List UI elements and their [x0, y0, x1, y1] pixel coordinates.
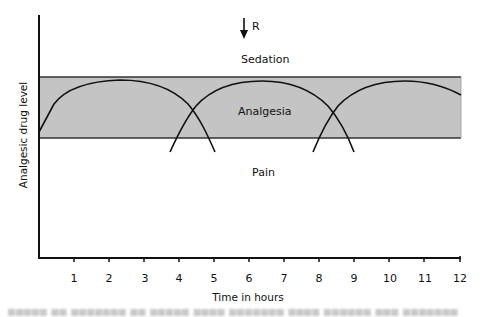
x-tick-label: 9	[351, 272, 358, 285]
x-tick-label: 11	[418, 272, 432, 285]
marker-r-label: R	[252, 20, 260, 33]
x-tick-label: 7	[281, 272, 288, 285]
y-axis-title: Analgesic drug level	[17, 82, 29, 188]
sedation-label: Sedation	[241, 53, 290, 66]
down-arrow-icon	[240, 18, 248, 39]
x-tick-label: 5	[211, 272, 218, 285]
x-tick-labels: 1 2 3 4 5 6 7 8 9 10 11 12	[71, 272, 468, 285]
x-tick-label: 8	[316, 272, 323, 285]
x-axis-title: Time in hours	[211, 291, 283, 303]
pain-label: Pain	[252, 166, 275, 179]
drug-level-diagram: 1 2 3 4 5 6 7 8 9 10 11 12 Time in hours…	[0, 0, 487, 317]
x-tick-label: 10	[383, 272, 397, 285]
x-tick-label: 3	[142, 272, 149, 285]
x-tick-label: 6	[246, 272, 253, 285]
x-tick-label: 2	[106, 272, 113, 285]
x-tick-label: 4	[176, 272, 183, 285]
cut-off-caption: ▇▇▇▇▇ ▇▇ ▇▇▇▇▇▇▇ ▇▇ ▇▇▇▇▇ ▇▇▇▇ ▇▇▇▇▇▇▇ ▇…	[8, 308, 478, 316]
x-tick-label: 12	[453, 272, 467, 285]
analgesia-label: Analgesia	[238, 105, 292, 118]
x-tick-label: 1	[71, 272, 78, 285]
